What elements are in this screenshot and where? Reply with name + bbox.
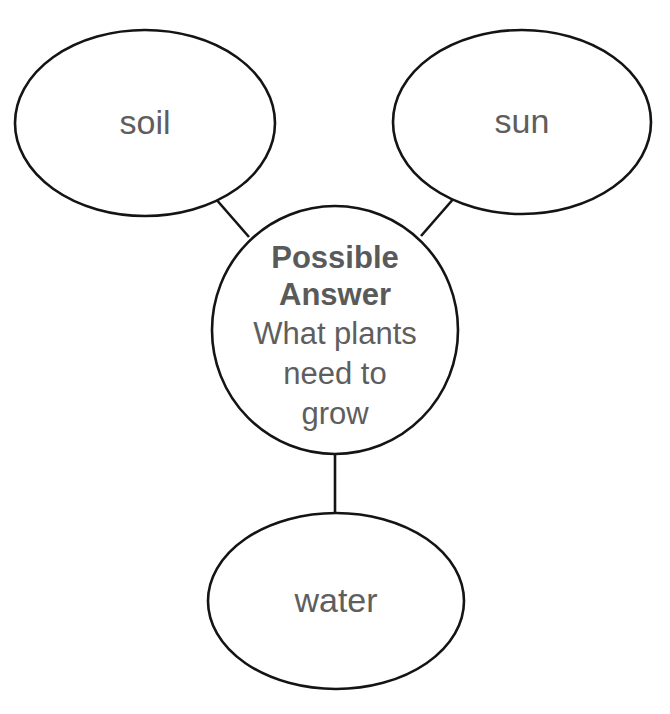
node-sun[interactable]: sun	[393, 30, 651, 214]
center-body-line-2: need to	[283, 356, 386, 391]
center-heading-line-1: Possible	[271, 240, 399, 275]
node-water-label: water	[293, 581, 377, 619]
connector-sun-to-center	[421, 197, 455, 236]
node-water[interactable]: water	[208, 513, 464, 689]
center-body-line-3: grow	[301, 396, 369, 431]
node-soil-label: soil	[119, 103, 170, 141]
center-body-line-1: What plants	[253, 316, 417, 351]
concept-map-canvas: soil sun water Possible Answer What plan…	[0, 0, 670, 714]
node-sun-label: sun	[495, 102, 550, 140]
concept-map-diagram: soil sun water Possible Answer What plan…	[0, 0, 670, 714]
node-possible-answer[interactable]: Possible Answer What plants need to grow	[212, 206, 458, 454]
node-soil[interactable]: soil	[15, 30, 275, 216]
connector-soil-to-center	[215, 198, 249, 237]
center-heading-line-2: Answer	[279, 277, 391, 312]
